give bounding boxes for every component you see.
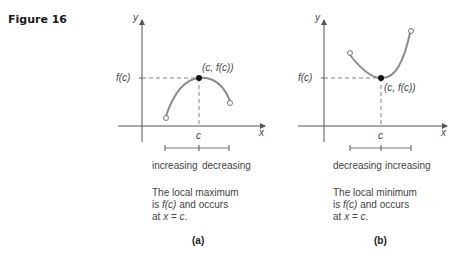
curve-max [166,78,230,116]
interval-left-label: decreasing [333,160,382,172]
panel-caption: (a) [192,235,204,246]
open-endpoint-right [228,101,233,106]
x-axis-label: x [259,127,264,139]
c-label: c [196,130,201,142]
panel-a-graph [118,20,265,151]
local-max-point [196,75,202,81]
panel-caption: (b) [374,235,387,246]
fc-label: f(c) [116,72,130,84]
curve-min [350,33,410,78]
y-axis-label: y [315,12,320,24]
panel-b-graph [298,20,447,151]
description: The local minimum is f(c) and occurs at … [333,187,417,223]
interval-right-label: decreasing [202,160,251,172]
fc-label: f(c) [298,72,312,84]
description: The local maximum is f(c) and occurs at … [152,187,239,223]
x-axis-label: x [441,127,446,139]
interval-right-label: increasing [385,160,431,172]
interval-left-label: increasing [152,160,198,172]
local-min-point [378,75,384,81]
c-label: c [378,130,383,142]
point-label: (c, f(c)) [384,82,416,94]
open-endpoint-left [164,116,169,121]
open-endpoint-right [409,29,414,34]
open-endpoint-left [348,51,353,56]
point-label: (c, f(c)) [202,62,234,74]
y-axis-label: y [133,12,138,24]
